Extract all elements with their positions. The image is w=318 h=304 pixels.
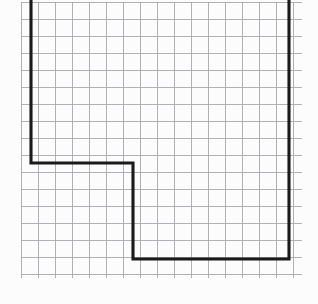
l-shape-figure (0, 0, 318, 304)
grid-lines (21, 2, 302, 278)
shape-layer (31, 0, 289, 259)
graph-paper-canvas (0, 0, 318, 304)
l-shape-path (31, 0, 289, 259)
